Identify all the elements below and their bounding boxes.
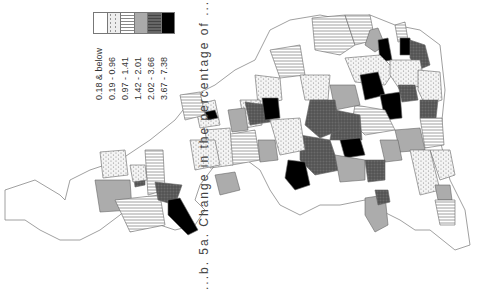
- legend: 0.18 & below 0.19 - 0.96 0.97 - 1.41 1.4…: [93, 12, 175, 34]
- legend-swatch-dots: [108, 13, 122, 33]
- legend-labels: 0.18 & below 0.19 - 0.96 0.97 - 1.41 1.4…: [93, 34, 173, 104]
- legend-label: 0.19 - 0.96: [107, 57, 117, 100]
- legend-swatches: [93, 12, 175, 34]
- legend-swatch-hlines: [121, 13, 135, 33]
- legend-label: 1.42 - 2.01: [133, 57, 143, 100]
- legend-swatch-black: [162, 13, 175, 33]
- legend-swatch-darkgrey: [148, 13, 162, 33]
- legend-label: 0.18 & below: [94, 48, 104, 100]
- legend-label: 3.67 - 7.38: [159, 57, 169, 100]
- choropleth-map: [0, 0, 489, 291]
- legend-swatch-grey: [135, 13, 149, 33]
- legend-swatch-blank: [94, 13, 108, 33]
- legend-label: 2.02 - 3.66: [146, 57, 156, 100]
- legend-label: 0.97 - 1.41: [120, 57, 130, 100]
- figure-caption: ...b. 5a. Change in the percentage of ..…: [197, 0, 211, 290]
